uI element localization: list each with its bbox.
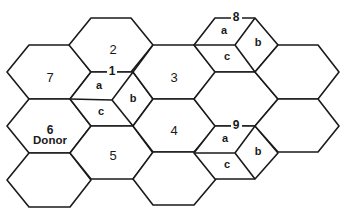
hex-9-region-a: a: [222, 132, 229, 144]
hex-1-region-b: b: [130, 92, 137, 104]
hex-1-label: 1: [109, 64, 116, 78]
hex-1-region-a: a: [96, 79, 103, 91]
hex-8-region-b: b: [255, 36, 262, 48]
hex-8-label: 8: [233, 10, 240, 24]
hex-2-label: 2: [109, 42, 116, 57]
hex-9-region-c: c: [224, 158, 230, 170]
hex-8-region-a: a: [221, 24, 228, 36]
hex-5-label: 5: [109, 148, 116, 163]
donor-label: Donor: [33, 134, 67, 146]
hex-1-region-c: c: [98, 105, 104, 117]
hex-9-region-b: b: [255, 145, 262, 157]
hex-7-label: 7: [46, 70, 53, 85]
hex-3-label: 3: [170, 70, 177, 85]
hex-4-label: 4: [170, 123, 177, 138]
hex-diagram: 7 2 3 4 5 6 Donor 1 a b c 8 a b c 9 a b …: [0, 0, 350, 217]
hex-9-label: 9: [233, 118, 240, 132]
hex-grid-svg: 7 2 3 4 5 6 Donor 1 a b c 8 a b c 9 a b …: [0, 0, 350, 217]
hex-8-region-c: c: [224, 50, 230, 62]
